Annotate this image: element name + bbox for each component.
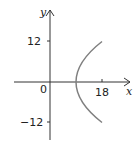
parabola-chart: y x 0 12 −12 18 xyxy=(0,0,136,145)
y-tick-label-12: 12 xyxy=(27,35,41,48)
y-axis-label: y xyxy=(39,6,47,19)
x-tick-label-18: 18 xyxy=(95,86,109,99)
x-axis-label: x xyxy=(126,85,133,98)
origin-label: 0 xyxy=(40,83,47,96)
y-tick-label-neg12: −12 xyxy=(20,116,43,129)
